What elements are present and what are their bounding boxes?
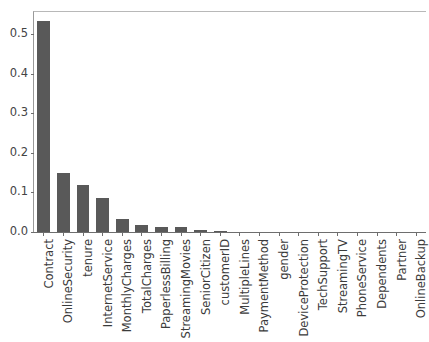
x-tick-label: gender <box>279 239 291 280</box>
x-tick-mark <box>396 232 397 236</box>
x-tick-mark <box>161 232 162 236</box>
x-tick-mark <box>239 232 240 236</box>
x-tick-label: StreamingTV <box>338 239 350 313</box>
y-tick-label: 0.3 <box>10 108 28 120</box>
x-tick-mark <box>416 232 417 236</box>
bar <box>37 21 50 233</box>
x-tick-label: MultipleLines <box>240 239 252 315</box>
y-tick-label: 0.2 <box>10 147 28 159</box>
x-tick-label: PaperlessBilling <box>161 239 173 329</box>
x-tick-mark <box>181 232 182 236</box>
x-tick-label: customerID <box>220 239 232 305</box>
y-tick-label: 0.0 <box>10 226 28 238</box>
x-tick-mark <box>377 232 378 236</box>
x-tick-mark <box>318 232 319 236</box>
x-tick-label: PhoneService <box>357 239 369 317</box>
x-tick-mark <box>220 232 221 236</box>
x-tick-label: TotalCharges <box>142 239 154 313</box>
y-tick-label: 0.1 <box>10 187 28 199</box>
x-tick-label: PaymentMethod <box>259 239 271 332</box>
x-tick-mark <box>200 232 201 236</box>
x-tick-label: OnlineBackup <box>416 239 428 318</box>
x-tick-label: Partner <box>397 239 409 281</box>
x-tick-mark <box>83 232 84 236</box>
x-tick-mark <box>298 232 299 236</box>
x-tick-label: SeniorCitizen <box>201 239 213 315</box>
plot-area: 0.00.10.20.30.40.5 ContractOnlineSecurit… <box>33 11 426 233</box>
y-tick-label: 0.5 <box>10 29 28 41</box>
x-tick-mark <box>122 232 123 236</box>
x-tick-label: TechSupport <box>318 239 330 310</box>
x-tick-label: tenure <box>83 239 95 277</box>
bar <box>135 225 148 233</box>
x-tick-mark <box>43 232 44 236</box>
x-tick-label: Dependents <box>377 239 389 309</box>
bar <box>96 198 109 232</box>
x-tick-label: OnlineSecurity <box>63 239 75 323</box>
x-tick-label: InternetService <box>103 239 115 327</box>
bar <box>77 185 90 232</box>
bar <box>57 173 70 232</box>
x-tick-mark <box>357 232 358 236</box>
x-tick-mark <box>102 232 103 236</box>
x-tick-label: StreamingMovies <box>181 239 193 338</box>
x-tick-label: MonthlyCharges <box>122 239 134 332</box>
x-tick-mark <box>63 232 64 236</box>
bar-series <box>34 12 426 232</box>
x-tick-mark <box>279 232 280 236</box>
x-tick-mark <box>259 232 260 236</box>
bar <box>116 219 129 232</box>
x-tick-label: DeviceProtection <box>299 239 311 337</box>
y-tick-label: 0.4 <box>10 68 28 80</box>
y-tick-mark <box>31 232 34 233</box>
x-tick-mark <box>141 232 142 236</box>
figure-canvas: 0.00.10.20.30.40.5 ContractOnlineSecurit… <box>0 0 429 342</box>
x-tick-label: Contract <box>44 239 56 288</box>
x-tick-mark <box>337 232 338 236</box>
